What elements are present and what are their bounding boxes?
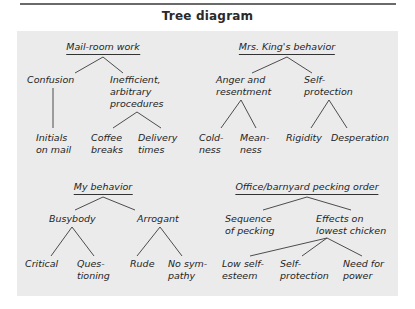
node-line: Mean- [240, 132, 269, 144]
node-line: Effects on [316, 213, 386, 225]
leaf-low-self-esteem: Low self- esteem [222, 258, 264, 282]
leaf-coldness: Cold- ness [199, 132, 224, 156]
node-self-protection: Self- protection [304, 74, 353, 98]
leaf-meanness: Mean- ness [240, 132, 269, 156]
node-line: arbitrary [110, 86, 164, 98]
node-busybody: Busybody [49, 213, 96, 225]
node-inefficient-procedures: Inefficient, arbitrary procedures [110, 74, 164, 110]
leaf-coffee-breaks: Coffee breaks [91, 132, 123, 156]
node-effects-on-lowest-chicken: Effects on lowest chicken [316, 213, 386, 237]
node-line: lowest chicken [316, 225, 386, 237]
node-line: tioning [77, 270, 110, 282]
leaf-critical: Critical [25, 258, 58, 270]
node-line: Anger and [216, 74, 271, 86]
node-line: Need for [343, 258, 384, 270]
node-line: breaks [91, 144, 123, 156]
node-line: Cold- [199, 132, 224, 144]
node-line: Ques- [77, 258, 110, 270]
tree-root-my-behavior: My behavior [74, 181, 133, 195]
tree-root-mrs-kings-behavior: Mrs. King's behavior [239, 41, 335, 55]
node-line: Sequence [225, 213, 274, 225]
node-sequence-of-pecking: Sequence of pecking [225, 213, 274, 237]
node-line: procedures [110, 98, 164, 110]
tree-root-mail-room-work: Mail-room work [66, 41, 140, 55]
node-line: resentment [216, 86, 271, 98]
node-line: Critical [25, 258, 58, 270]
node-line: ness [240, 144, 269, 156]
node-line: Initials [36, 132, 71, 144]
node-line: Rigidity [286, 132, 322, 144]
tree-root-pecking-order: Office/barnyard pecking order [235, 181, 378, 195]
leaf-rude: Rude [130, 258, 155, 270]
node-line: Low self- [222, 258, 264, 270]
node-anger-and-resentment: Anger and resentment [216, 74, 271, 98]
leaf-delivery-times: Delivery times [138, 132, 177, 156]
node-line: Busybody [49, 213, 96, 225]
leaf-desperation: Desperation [331, 132, 389, 144]
node-line: Desperation [331, 132, 389, 144]
node-line: Self- [280, 258, 329, 270]
node-line: Delivery [138, 132, 177, 144]
node-line: Rude [130, 258, 155, 270]
leaf-self-protection: Self- protection [280, 258, 329, 282]
node-line: Confusion [27, 74, 74, 86]
node-line: on mail [36, 144, 71, 156]
node-line: Arrogant [137, 213, 179, 225]
node-arrogant: Arrogant [137, 213, 179, 225]
node-line: Coffee [91, 132, 123, 144]
node-line: ness [199, 144, 224, 156]
node-line: protection [304, 86, 353, 98]
leaf-need-for-power: Need for power [343, 258, 384, 282]
node-line: No sym- [168, 258, 207, 270]
node-line: esteem [222, 270, 264, 282]
node-line: Self- [304, 74, 353, 86]
node-line: power [343, 270, 384, 282]
node-line: pathy [168, 270, 207, 282]
node-line: of pecking [225, 225, 274, 237]
node-line: Inefficient, [110, 74, 164, 86]
leaf-initials-on-mail: Initials on mail [36, 132, 71, 156]
leaf-questioning: Ques- tioning [77, 258, 110, 282]
node-line: protection [280, 270, 329, 282]
node-confusion: Confusion [27, 74, 74, 86]
node-line: times [138, 144, 177, 156]
leaf-no-sympathy: No sym- pathy [168, 258, 207, 282]
leaf-rigidity: Rigidity [286, 132, 322, 144]
